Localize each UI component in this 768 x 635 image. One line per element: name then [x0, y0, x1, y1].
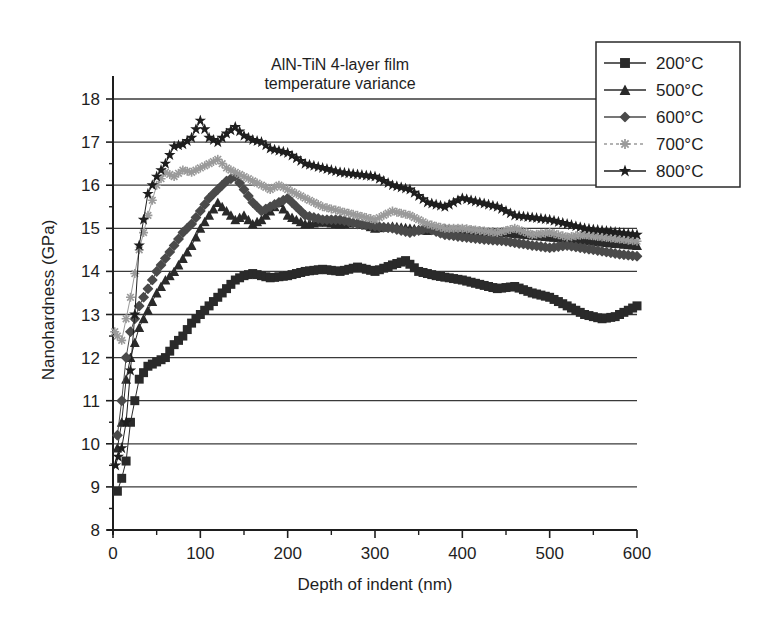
y-axis-ticks: 89101112131415161718 [81, 90, 113, 540]
star-marker-icon [199, 123, 211, 134]
square-marker-icon [117, 474, 126, 483]
x-tick-label: 0 [108, 544, 117, 563]
x-tick-label: 400 [448, 544, 476, 563]
square-marker-icon [113, 487, 122, 496]
y-tick-label: 15 [81, 219, 100, 238]
star-marker-icon [190, 123, 202, 134]
triangle-marker-icon [147, 297, 157, 307]
triangle-marker-icon [134, 322, 144, 332]
asterisk-marker-icon [122, 314, 131, 323]
diamond-marker-icon [116, 395, 127, 406]
series-200c [113, 256, 642, 496]
x-axis-title: Depth of indent (nm) [298, 575, 453, 594]
asterisk-legend-icon [620, 139, 630, 149]
asterisk-marker-icon [148, 196, 157, 205]
asterisk-marker-icon [126, 293, 135, 302]
gridlines [113, 99, 637, 487]
asterisk-marker-icon [117, 336, 126, 345]
x-tick-label: 100 [186, 544, 214, 563]
star-marker-icon [164, 149, 176, 160]
y-tick-label: 17 [81, 133, 100, 152]
y-tick-label: 9 [91, 478, 100, 497]
legend: 200°C500°C600°C700°C800°C [596, 42, 740, 187]
triangle-marker-icon [130, 338, 140, 348]
legend-label: 700°C [656, 135, 703, 154]
x-tick-label: 200 [273, 544, 301, 563]
y-tick-label: 18 [81, 90, 100, 109]
y-axis-title: Nanohardness (GPa) [39, 220, 58, 381]
legend-label: 200°C [656, 54, 703, 73]
y-tick-label: 14 [81, 262, 100, 281]
triangle-marker-icon [187, 241, 197, 251]
legend-label: 600°C [656, 108, 703, 127]
star-marker-icon [195, 115, 207, 126]
square-marker-icon [122, 457, 131, 466]
y-tick-label: 8 [91, 521, 100, 540]
y-tick-label: 11 [82, 392, 100, 411]
diamond-marker-icon [125, 326, 136, 337]
square-marker-icon [130, 396, 139, 405]
y-tick-label: 12 [81, 349, 100, 368]
data-series [110, 115, 643, 496]
y-tick-label: 16 [81, 176, 100, 195]
x-tick-label: 600 [623, 544, 651, 563]
square-marker-icon [633, 301, 642, 310]
x-tick-label: 300 [361, 544, 389, 563]
legend-label: 500°C [656, 81, 703, 100]
asterisk-marker-icon [633, 237, 642, 246]
nanohardness-chart: AlN-TiN 4-layer film temperature varianc… [0, 0, 768, 635]
chart-title: AlN-TiN 4-layer film temperature varianc… [264, 56, 415, 92]
y-tick-label: 13 [81, 306, 100, 325]
y-tick-label: 10 [81, 435, 100, 454]
chart-title-line-1: AlN-TiN 4-layer film [271, 56, 409, 73]
square-legend-icon [620, 58, 630, 68]
legend-label: 800°C [656, 162, 703, 181]
x-tick-label: 500 [535, 544, 563, 563]
triangle-marker-icon [191, 232, 201, 242]
x-axis-ticks: 0100200300400500600 [108, 530, 651, 563]
series-line [117, 261, 637, 492]
triangle-marker-icon [143, 305, 153, 315]
chart-title-line-2: temperature variance [264, 75, 415, 92]
